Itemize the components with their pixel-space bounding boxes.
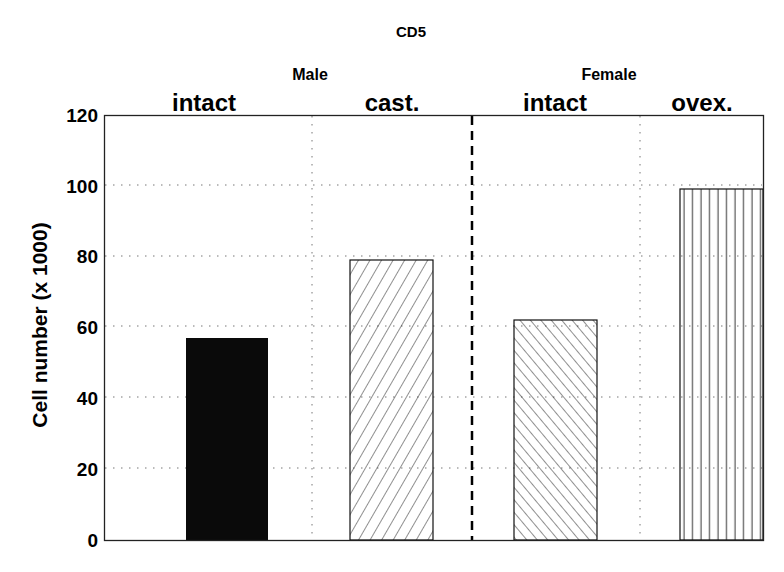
y-axis-label: Cell number (x 1000) [28, 222, 51, 427]
y-tick-40: 40 [77, 388, 98, 409]
category-label-male-intact: intact [172, 89, 236, 116]
bar-male-intact [186, 338, 268, 540]
category-label-male-cast: cast. [365, 89, 420, 116]
y-tick-0: 0 [87, 530, 98, 551]
y-tick-60: 60 [77, 317, 98, 338]
y-tick-80: 80 [77, 246, 98, 267]
y-tick-20: 20 [77, 459, 98, 480]
y-tick-120: 120 [66, 105, 98, 126]
category-label-female-ovex: ovex. [671, 89, 732, 116]
bar-chart: CD5 Male Female intact cast. intact ovex… [0, 0, 784, 572]
category-label-female-intact: intact [523, 89, 587, 116]
group-label-male: Male [292, 66, 328, 83]
chart-title: CD5 [396, 23, 426, 40]
bar-female-intact [514, 320, 597, 540]
bar-male-cast [350, 260, 433, 540]
group-label-female: Female [581, 66, 636, 83]
y-axis-ticks: 0 20 40 60 80 100 120 [66, 105, 98, 551]
bar-female-ovex [680, 189, 763, 540]
y-tick-100: 100 [66, 176, 98, 197]
